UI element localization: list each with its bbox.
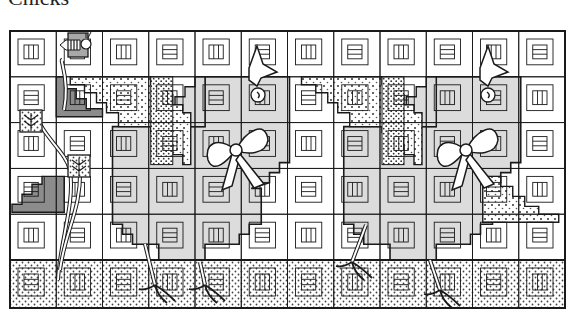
- quilt-block: [380, 31, 426, 77]
- wing-strip: [382, 77, 404, 165]
- quilt-block: [334, 31, 380, 77]
- wing-strip: [151, 77, 173, 165]
- quilt-block: [103, 31, 149, 77]
- quilt-block: [519, 123, 565, 169]
- bow-knot: [460, 144, 472, 156]
- bow-knot: [230, 144, 242, 156]
- quilt-block: [519, 31, 565, 77]
- quilt-block: [288, 31, 334, 77]
- quilt-block: [519, 77, 565, 123]
- quilt-block: [426, 31, 472, 77]
- quilt-block: [288, 123, 334, 169]
- leaf-icon: [68, 155, 90, 177]
- quilt-block: [10, 31, 56, 77]
- eye-icon: [481, 88, 495, 102]
- quilt-block: [195, 31, 241, 77]
- quilt-block: [10, 214, 56, 260]
- eye-icon: [251, 88, 265, 102]
- quilt-diagram: [0, 0, 576, 318]
- leaf-icon: [20, 110, 42, 132]
- quilt-block: [149, 31, 195, 77]
- quilt-block: [288, 214, 334, 260]
- quilt-block: [288, 168, 334, 214]
